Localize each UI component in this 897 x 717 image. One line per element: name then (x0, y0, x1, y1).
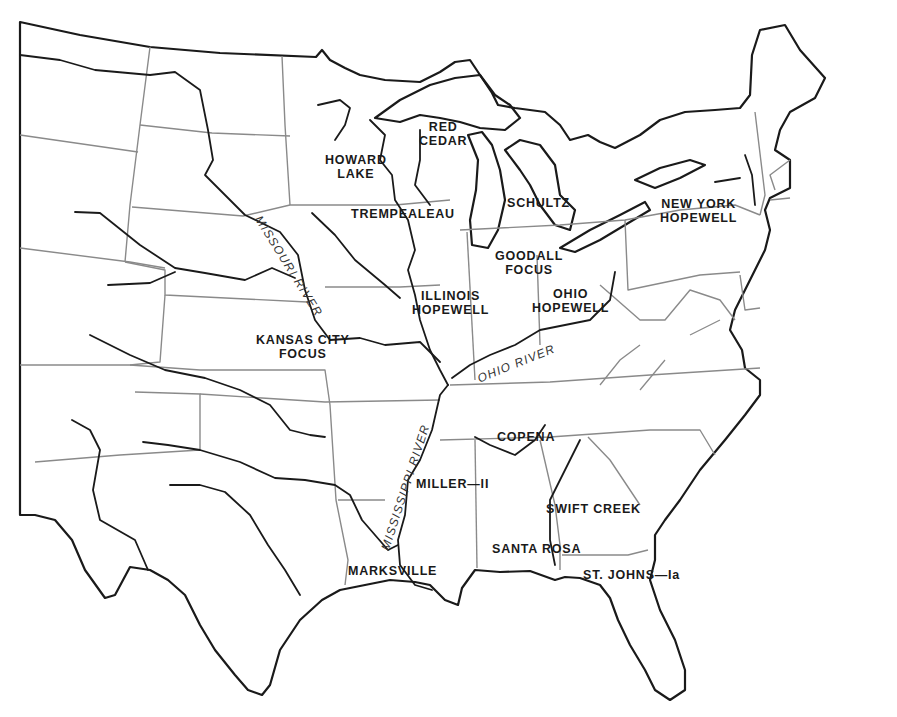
map-canvas (0, 0, 897, 717)
label-line: HOWARD (325, 153, 387, 167)
label-line: ST. JOHNS—Ia (583, 568, 680, 582)
site-label-copena: COPENA (497, 430, 555, 444)
site-label-st-johns-ia: ST. JOHNS—Ia (583, 568, 680, 582)
label-line: HOPEWELL (660, 211, 737, 225)
label-line: HOPEWELL (532, 301, 609, 315)
site-label-ohio-hopewell: OHIO HOPEWELL (532, 287, 609, 315)
lake-ontario (635, 160, 705, 188)
site-label-new-york-hopewell: NEW YORK HOPEWELL (660, 197, 737, 225)
site-label-kansas-city-focus: KANSAS CITY FOCUS (256, 333, 350, 361)
label-line: MARKSVILLE (348, 564, 437, 578)
label-line: FOCUS (256, 347, 350, 361)
site-label-goodall-focus: GOODALL FOCUS (495, 249, 563, 277)
site-label-red-cedar: RED CEDAR (419, 120, 467, 148)
illinois-river-path (312, 213, 400, 298)
site-label-illinois-hopewell: ILLINOIS HOPEWELL (412, 289, 489, 317)
label-line: SANTA ROSA (492, 542, 581, 556)
label-line: HOPEWELL (412, 303, 489, 317)
label-line: FOCUS (495, 263, 563, 277)
label-line: TREMPEALEAU (351, 207, 455, 221)
label-line: KANSAS CITY (256, 333, 350, 347)
label-line: LAKE (325, 167, 387, 181)
site-label-trempealeau: TREMPEALEAU (351, 207, 455, 221)
minnesota-river-path (318, 100, 350, 140)
lake-michigan (468, 132, 505, 248)
mohawk-river-path (715, 178, 740, 182)
lake-huron (505, 140, 575, 230)
site-label-santa-rosa: SANTA ROSA (492, 542, 581, 556)
red-river-path (143, 442, 398, 550)
brazos-river-path (170, 485, 300, 595)
label-line: RED (419, 120, 467, 134)
label-line: GOODALL (495, 249, 563, 263)
label-line: ILLINOIS (412, 289, 489, 303)
rio-grande-path (72, 420, 148, 570)
site-label-schultz: SCHULTZ (507, 196, 570, 210)
site-label-marksville: MARKSVILLE (348, 564, 437, 578)
site-label-miller-ii: MILLER—II (416, 477, 489, 491)
label-line: SCHULTZ (507, 196, 570, 210)
label-line: COPENA (497, 430, 555, 444)
rivers (20, 55, 755, 595)
hudson-river-path (745, 155, 755, 205)
label-line: CEDAR (419, 134, 467, 148)
site-label-swift-creek: SWIFT CREEK (546, 502, 641, 516)
piedmont-rivers (600, 320, 720, 390)
site-label-howard-lake: HOWARD LAKE (325, 153, 387, 181)
label-line: SWIFT CREEK (546, 502, 641, 516)
label-line: MILLER—II (416, 477, 489, 491)
label-line: NEW YORK (660, 197, 737, 211)
label-line: OHIO (532, 287, 609, 301)
